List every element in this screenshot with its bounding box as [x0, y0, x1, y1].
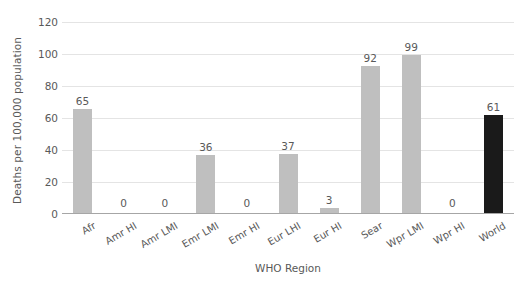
bar-value-label: 0 [224, 198, 270, 209]
y-axis-tick-label: 0 [24, 209, 58, 220]
bar-value-label: 99 [388, 42, 434, 53]
bar[interactable] [484, 115, 503, 213]
x-axis-tick-labels: AfrAmr HIAmr LMIEmr LMIEmr HIEur LHIEur … [62, 216, 514, 264]
gridline [62, 86, 514, 87]
bar[interactable] [361, 66, 380, 213]
bar[interactable] [73, 109, 92, 213]
bar-value-label: 65 [60, 96, 106, 107]
x-axis-line [62, 213, 514, 214]
bar-chart: Deaths per 100,000 population 0204060801… [0, 0, 526, 285]
bar[interactable] [279, 154, 298, 213]
bar[interactable] [402, 55, 421, 213]
gridline [62, 22, 514, 23]
bar-value-label: 37 [265, 141, 311, 152]
bar[interactable] [196, 155, 215, 213]
y-axis-tick-label: 40 [24, 145, 58, 156]
y-axis-tick-label: 100 [24, 49, 58, 60]
gridline [62, 118, 514, 119]
y-axis-tick-label: 80 [24, 81, 58, 92]
bar-value-label: 92 [347, 53, 393, 64]
plot-area: 65003603739299061 [62, 22, 514, 214]
y-axis-tick-label: 20 [24, 177, 58, 188]
bar-value-label: 36 [183, 142, 229, 153]
gridline [62, 54, 514, 55]
bar-value-label: 61 [470, 102, 516, 113]
bar-value-label: 0 [429, 198, 475, 209]
bar[interactable] [320, 208, 339, 213]
bar-value-label: 0 [142, 198, 188, 209]
x-axis-title: WHO Region [62, 262, 514, 274]
bar-value-label: 0 [101, 198, 147, 209]
bar-value-label: 3 [306, 195, 352, 206]
y-axis-tick-label: 60 [24, 113, 58, 124]
y-axis-tick-label: 120 [24, 17, 58, 28]
